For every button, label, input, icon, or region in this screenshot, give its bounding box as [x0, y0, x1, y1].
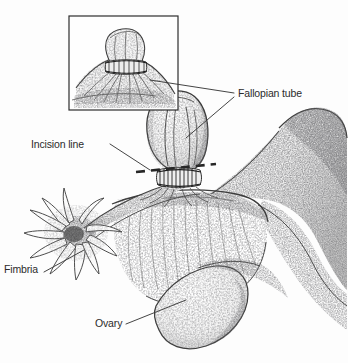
magnified-ligature-inset [69, 16, 178, 110]
fimbria-structure [24, 188, 122, 280]
leader-incision [110, 144, 150, 170]
medical-illustration-figure: Fallopian tube Incision line Fimbria Ova… [0, 0, 348, 363]
label-incision-line: Incision line [31, 139, 84, 150]
anatomy-group [24, 16, 347, 349]
illustration-artwork [0, 0, 348, 363]
label-ovary: Ovary [95, 318, 122, 329]
label-fallopian-tube: Fallopian tube [238, 88, 302, 99]
label-fimbria: Fimbria [4, 264, 38, 275]
